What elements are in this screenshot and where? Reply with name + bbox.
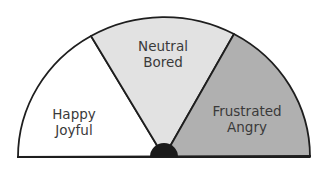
mood-gauge: Happy Joyful Neutral Bored Frustrated An… bbox=[0, 0, 328, 172]
label-bored: Bored bbox=[143, 54, 183, 70]
label-happy: Happy bbox=[52, 106, 96, 122]
label-neutral: Neutral bbox=[138, 38, 188, 54]
label-frustrated: Frustrated bbox=[212, 103, 281, 119]
label-joyful: Joyful bbox=[54, 122, 92, 138]
label-angry: Angry bbox=[227, 119, 267, 135]
